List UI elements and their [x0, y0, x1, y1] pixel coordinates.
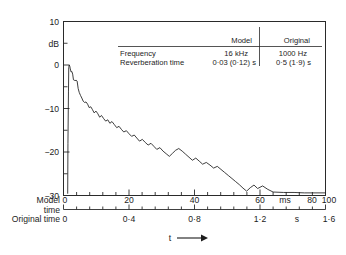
y-tick-minus10: −10: [44, 104, 59, 114]
model-tick-20: 20: [124, 195, 134, 205]
table-cell-reverb-original: 0·5 (1·9) s: [276, 58, 311, 67]
table-row-label-frequency: Frequency: [120, 49, 156, 58]
reverberation-decay-figure: 10 0 −10 −20 −30 dB 0 20 40 60 80 ms 100…: [0, 0, 346, 255]
model-tick-0: 0: [63, 195, 68, 205]
original-time-unit: s: [295, 214, 299, 224]
orig-tick-04: 0·4: [123, 214, 136, 224]
table-row: Reverberation time 0·03 (0·12) s 0·5 (1·…: [120, 58, 311, 67]
orig-tick-12: 1·2: [254, 214, 267, 224]
table-row-label-reverberation-time: Reverberation time: [120, 58, 184, 67]
model-time-unit: ms: [279, 195, 290, 205]
model-tick-40: 40: [190, 195, 200, 205]
model-tick-100: 100: [322, 195, 337, 205]
orig-tick-16: 1·6: [323, 214, 336, 224]
y-tick-minus20: −20: [44, 147, 59, 157]
table-col-original: Original: [284, 36, 310, 45]
model-tick-60: 60: [255, 195, 265, 205]
y-tick-10: 10: [49, 17, 59, 27]
orig-tick-08: 0·8: [188, 214, 201, 224]
y-tick-0: 0: [54, 60, 59, 70]
model-tick-80: 80: [307, 195, 317, 205]
model-time-label-line1: Model: [37, 195, 60, 205]
table-col-model: Model: [231, 36, 252, 45]
table-cell-reverb-model: 0·03 (0·12) s: [213, 58, 257, 67]
y-axis-label: dB: [48, 39, 59, 49]
orig-tick-0: 0: [63, 214, 68, 224]
original-time-label: Original time: [12, 214, 60, 224]
table-cell-frequency-model: 16 kHz: [224, 49, 248, 58]
table-cell-frequency-original: 1000 Hz: [279, 49, 307, 58]
